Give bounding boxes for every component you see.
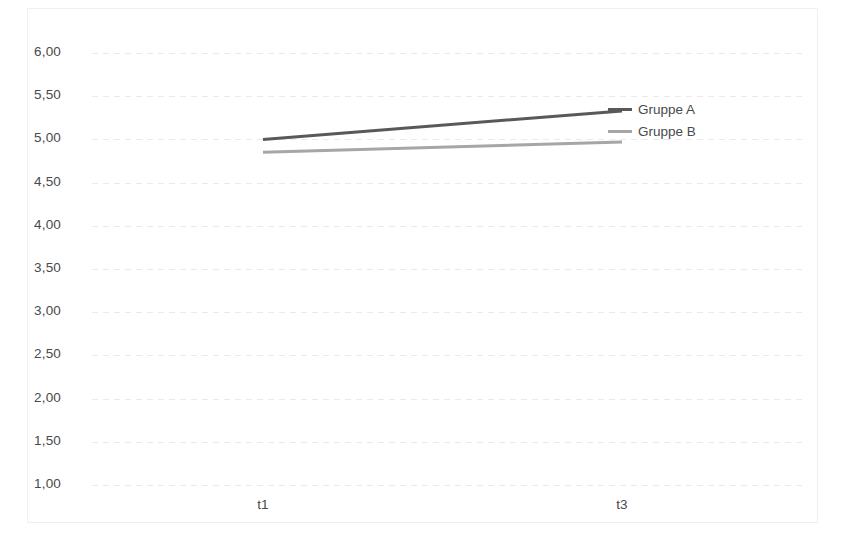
legend-swatch-icon — [608, 130, 632, 133]
series-line — [263, 142, 622, 152]
legend-item-label: Gruppe B — [638, 124, 696, 139]
series-line — [263, 111, 622, 140]
legend-item[interactable]: Gruppe B — [608, 120, 748, 142]
legend-item[interactable]: Gruppe A — [608, 98, 748, 120]
chart-legend: Gruppe AGruppe B — [608, 98, 748, 142]
series-layer — [0, 0, 852, 553]
legend-swatch-icon — [608, 108, 632, 111]
chart-screenshot: 6,005,505,004,504,003,503,002,502,001,50… — [0, 0, 852, 553]
legend-item-label: Gruppe A — [638, 102, 695, 117]
